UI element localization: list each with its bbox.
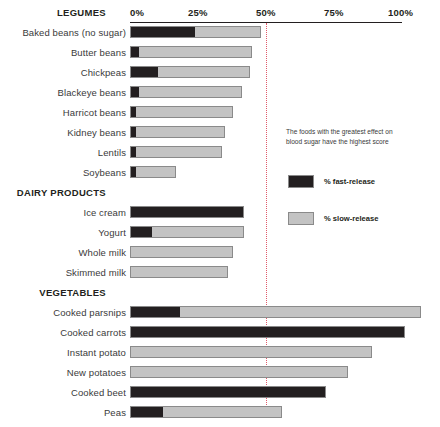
bar-instant-potato [130,346,372,358]
bar-segment-slow-release [152,227,243,237]
row-label-harricot-beans: Harricot beans [63,107,126,118]
axis-tick-50: 50% [256,7,276,18]
row-label-ice-cream: Ice cream [83,207,126,218]
axis-tick-100: 100% [388,7,413,18]
bar-cooked-beet [130,386,326,398]
row-label-cooked-parsnips: Cooked parsnips [53,307,126,318]
bar-segment-slow-release [136,127,224,137]
row-label-new-potatoes: New potatoes [67,367,126,378]
bar-skimmed-milk [130,266,228,278]
bar-new-potatoes [130,366,348,378]
bar-segment-slow-release [158,67,249,77]
axis-tick-75: 75% [324,7,344,18]
legend-label-slow-release: % slow-release [324,214,378,223]
bar-butter-beans [130,46,252,58]
bar-soybeans [130,166,176,178]
bar-segment-slow-release [136,107,232,117]
row-label-peas: Peas [104,407,126,418]
bar-peas [130,406,282,418]
bar-whole-milk [130,246,233,258]
section-header-dairy-products: DAIRY PRODUCTS [17,187,106,198]
bar-segment-slow-release [131,347,371,357]
bar-segment-slow-release [131,267,227,277]
bar-cooked-carrots [130,326,405,338]
bar-segment-fast-release [131,47,139,57]
blood-sugar-release-chart: 0%25%50%75%100%LEGUMESBaked beans (no su… [0,0,440,427]
section-header-legumes: LEGUMES [57,7,106,18]
row-label-lentils: Lentils [98,147,126,158]
bar-cooked-parsnips [130,306,421,318]
axis-tick-0: 0% [130,7,144,18]
bar-harricot-beans [130,106,233,118]
legend-item-slow-release: % slow-release [288,212,378,225]
row-label-instant-potato: Instant potato [67,347,126,358]
row-label-soybeans: Soybeans [83,167,126,178]
row-label-baked-beans-no-sugar: Baked beans (no sugar) [22,27,126,38]
bar-baked-beans-no-sugar [130,26,261,38]
bar-kidney-beans [130,126,225,138]
row-label-whole-milk: Whole milk [79,247,126,258]
legend-label-fast-release: % fast-release [324,177,375,186]
bar-segment-slow-release [180,307,420,317]
bar-segment-fast-release [131,27,195,37]
bar-segment-fast-release [131,207,243,217]
chart-annotation: The foods with the greatest effect on bl… [286,127,408,146]
axis-tick-25: 25% [188,7,208,18]
row-label-chickpeas: Chickpeas [81,67,126,78]
bar-segment-slow-release [139,87,241,97]
bar-ice-cream [130,206,244,218]
bar-segment-slow-release [131,247,232,257]
legend-swatch-slow-release [288,212,314,225]
bar-lentils [130,146,222,158]
row-label-cooked-carrots: Cooked carrots [60,327,126,338]
bar-segment-fast-release [131,67,158,77]
row-label-blackeye-beans: Blackeye beans [58,87,126,98]
row-label-skimmed-milk: Skimmed milk [66,267,126,278]
bar-segment-slow-release [136,167,175,177]
bar-chickpeas [130,66,250,78]
bar-segment-fast-release [131,407,163,417]
bar-segment-slow-release [163,407,281,417]
bar-segment-fast-release [131,327,404,337]
bar-segment-slow-release [136,147,221,157]
bar-blackeye-beans [130,86,242,98]
bar-segment-fast-release [131,87,139,97]
bar-segment-fast-release [131,227,152,237]
bar-segment-fast-release [131,307,180,317]
row-label-cooked-beet: Cooked beet [71,387,126,398]
legend-item-fast-release: % fast-release [288,175,375,188]
section-header-vegetables: VEGETABLES [39,287,106,298]
row-label-butter-beans: Butter beans [71,47,126,58]
bar-segment-fast-release [131,387,325,397]
bar-segment-slow-release [195,27,259,37]
bar-segment-slow-release [139,47,251,57]
row-label-kidney-beans: Kidney beans [67,127,126,138]
legend-swatch-fast-release [288,175,314,188]
bar-yogurt [130,226,244,238]
bar-segment-slow-release [131,367,347,377]
row-label-yogurt: Yogurt [98,227,126,238]
